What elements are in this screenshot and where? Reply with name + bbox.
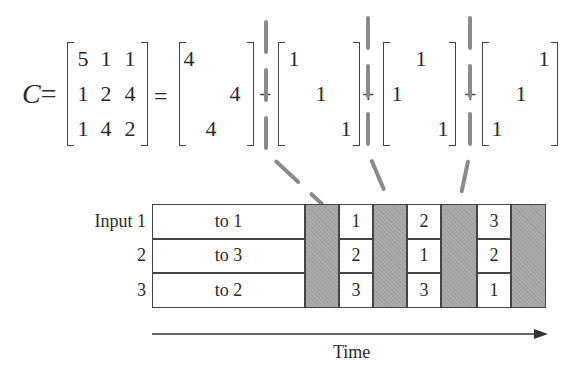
time-axis-label: Time [333, 342, 370, 363]
time-arrow-icon [0, 0, 574, 377]
